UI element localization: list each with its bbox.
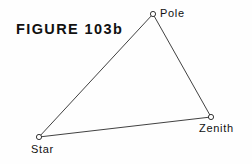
pole-vertex-marker-icon bbox=[150, 11, 155, 16]
star-vertex-marker-icon bbox=[36, 134, 41, 139]
figure-title: FIGURE 103b bbox=[16, 22, 123, 37]
star-vertex-label: Star bbox=[31, 144, 54, 155]
figure-canvas: FIGURE 103b Pole Zenith Star bbox=[0, 0, 252, 164]
edge-pole-zenith bbox=[153, 14, 211, 117]
zenith-vertex-label: Zenith bbox=[199, 123, 234, 134]
zenith-vertex-marker-icon bbox=[208, 114, 213, 119]
edge-star-zenith bbox=[39, 117, 211, 137]
pole-vertex-label: Pole bbox=[160, 8, 185, 19]
